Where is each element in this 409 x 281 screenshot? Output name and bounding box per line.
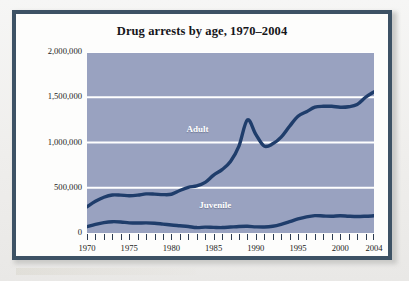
x-axis-tick [197,234,198,240]
x-axis-tick [112,234,113,240]
series-line-adult [87,92,374,207]
y-tick-label: 0 [78,227,82,237]
x-tick-label: 1970 [78,243,95,253]
gridlines [87,52,374,188]
x-axis-tick [373,234,374,240]
x-axis-tick [214,234,215,240]
x-axis-tick [231,234,232,240]
x-axis-tick [247,234,248,240]
plot-area: AdultJuvenile [87,52,374,233]
x-axis-tick [155,234,156,240]
x-axis-tick [180,234,181,240]
series-line-juvenile [87,216,374,228]
y-tick-label: 1,500,000 [48,91,82,101]
x-axis-tick [163,234,164,240]
x-tick-label: 1990 [247,243,264,253]
chart-inner-panel: Drug arrests by age, 1970–2004 0500,0001… [16,14,388,256]
series-label-juvenile: Juvenile [199,200,231,210]
x-axis-tick [306,234,307,240]
x-axis-tick [205,234,206,240]
x-axis-tick [138,234,139,240]
x-axis-tick [349,234,350,240]
x-tick-label: 1995 [289,243,306,253]
x-tick-label: 1975 [121,243,138,253]
x-axis-tick [239,234,240,240]
x-tick-label: 2004 [365,243,382,253]
x-axis-tick [104,234,105,240]
x-axis-tick [95,234,96,240]
x-tick-label: 2000 [332,243,349,253]
x-tick-label: 1980 [163,243,180,253]
x-axis-tick [315,234,316,240]
series-label-adult: Adult [187,124,209,134]
x-axis-tick [264,234,265,240]
scanned-page: Drug arrests by age, 1970–2004 0500,0001… [0,0,409,281]
x-axis-tick [87,234,88,240]
x-axis-tick [222,234,223,240]
x-axis-tick [281,234,282,240]
page-caption-fragment [16,268,196,275]
x-axis-tick [171,234,172,240]
x-axis-tick [340,234,341,240]
y-axis-labels: 0500,0001,000,0001,500,0002,000,000 [16,52,82,233]
x-axis-tick [129,234,130,240]
x-axis-tick [188,234,189,240]
y-tick-label: 500,000 [54,182,82,192]
chart-title: Drug arrests by age, 1970–2004 [16,24,388,39]
x-axis-tick [146,234,147,240]
x-axis-tick [290,234,291,240]
x-axis-labels: 19701975198019851990199520002004 [87,243,374,259]
chart-frame: Drug arrests by age, 1970–2004 0500,0001… [12,10,392,260]
x-axis-tick [332,234,333,240]
y-tick-label: 1,000,000 [48,137,82,147]
x-axis-tick [298,234,299,240]
x-axis-tick [273,234,274,240]
x-axis-ticks [87,234,374,242]
x-axis-tick [366,234,367,240]
x-axis-tick [256,234,257,240]
x-axis-tick [323,234,324,240]
x-axis-tick [121,234,122,240]
x-tick-label: 1985 [205,243,222,253]
x-axis-tick [357,234,358,240]
y-tick-label: 2,000,000 [48,46,82,56]
